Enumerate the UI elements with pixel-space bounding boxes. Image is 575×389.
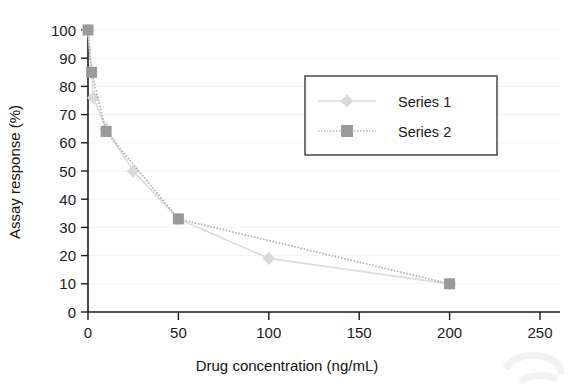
x-tick-label-0: 0 <box>84 324 92 341</box>
legend-box <box>305 76 497 155</box>
series-2-point-4 <box>444 278 455 289</box>
chart-legend: Series 1 Series 2 <box>305 76 497 155</box>
chart-container: 0102030405060708090100 050100150200250 D… <box>0 0 575 389</box>
series-2-point-1 <box>86 67 97 78</box>
x-tick-label-100: 100 <box>256 324 281 341</box>
y-tick-label-0: 0 <box>68 304 76 321</box>
x-axis-title: Drug concentration (ng/mL) <box>196 357 379 374</box>
y-tick-label-80: 80 <box>59 78 76 95</box>
y-tick-label-40: 40 <box>59 191 76 208</box>
series-2-point-3 <box>173 213 184 224</box>
y-tick-label-50: 50 <box>59 163 76 180</box>
legend-label-series-2: Series 2 <box>398 124 451 140</box>
x-tick-label-50: 50 <box>170 324 187 341</box>
y-tick-label-90: 90 <box>59 50 76 67</box>
x-tick-label-250: 250 <box>527 324 552 341</box>
x-tick-label-150: 150 <box>347 324 372 341</box>
y-tick-label-20: 20 <box>59 247 76 264</box>
y-tick-label-100: 100 <box>51 22 76 39</box>
y-axis-title: Assay response (%) <box>6 105 23 239</box>
y-tick-label-60: 60 <box>59 134 76 151</box>
series-2-point-2 <box>101 126 112 137</box>
square-marker <box>341 125 353 137</box>
assay-response-line-chart: 0102030405060708090100 050100150200250 D… <box>0 0 575 389</box>
legend-label-series-1: Series 1 <box>398 94 451 110</box>
y-tick-label-30: 30 <box>59 219 76 236</box>
x-tick-label-200: 200 <box>437 324 462 341</box>
series-2-point-0 <box>83 25 94 36</box>
y-tick-label-70: 70 <box>59 106 76 123</box>
y-tick-label-10: 10 <box>59 275 76 292</box>
